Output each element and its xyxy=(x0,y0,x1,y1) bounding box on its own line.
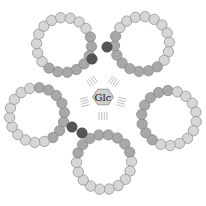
hatch-line xyxy=(118,100,126,102)
bead xyxy=(125,63,135,73)
hatch-line xyxy=(118,97,126,99)
bead xyxy=(174,138,184,148)
bead xyxy=(143,66,153,76)
dark-bead xyxy=(77,128,87,138)
bead xyxy=(94,130,104,140)
diagram-svg: Glc xyxy=(0,0,206,206)
bead xyxy=(165,140,175,150)
hatch-line xyxy=(80,100,88,102)
bead xyxy=(4,112,14,122)
bead xyxy=(46,15,56,25)
bead xyxy=(140,11,150,21)
dark-bead xyxy=(67,122,77,132)
bead xyxy=(73,167,83,177)
bead xyxy=(57,98,67,108)
bead xyxy=(124,147,134,157)
bead xyxy=(32,48,42,58)
hatch-line xyxy=(80,97,88,99)
dark-bead xyxy=(87,54,97,64)
bead xyxy=(137,109,147,119)
hatch-line xyxy=(117,102,125,104)
bead xyxy=(112,50,122,60)
glucose-molecule: Glc xyxy=(93,89,114,105)
bead xyxy=(130,12,140,22)
bead xyxy=(34,82,44,92)
hatch-line xyxy=(116,105,124,107)
glucose-label: Glc xyxy=(95,92,112,103)
ring-top-right xyxy=(109,11,174,76)
dark-bead xyxy=(102,42,112,52)
hatch-line xyxy=(82,105,90,107)
bead xyxy=(162,28,172,38)
glucose-channel-diagram: Glc xyxy=(0,0,206,206)
bead xyxy=(31,38,41,48)
bead xyxy=(191,107,201,117)
ring-left xyxy=(4,82,69,147)
bead xyxy=(104,184,114,194)
ring-bottom xyxy=(71,130,136,195)
bead xyxy=(86,41,96,51)
bead xyxy=(71,157,81,167)
bead xyxy=(25,83,35,93)
bead xyxy=(134,66,144,76)
bead xyxy=(62,67,72,77)
ring-right xyxy=(137,85,202,150)
bead xyxy=(164,37,174,47)
bead xyxy=(163,85,173,95)
bead xyxy=(7,122,17,132)
bead xyxy=(85,32,95,42)
hatch-line xyxy=(81,102,89,104)
bead xyxy=(39,136,49,146)
bead xyxy=(59,107,69,117)
bead xyxy=(137,119,147,129)
bead xyxy=(30,137,40,147)
bead xyxy=(56,13,66,23)
bead xyxy=(153,87,163,97)
ring-top-left xyxy=(31,13,96,78)
bead xyxy=(126,156,136,166)
bead xyxy=(191,116,201,126)
